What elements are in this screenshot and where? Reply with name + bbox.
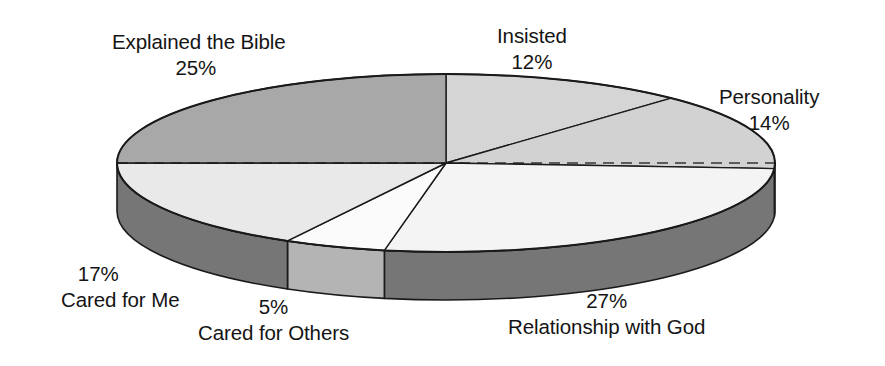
pie-label-cared-for-others-value: 5% (198, 294, 349, 320)
pie-label-personality: Personality 14% (719, 84, 819, 136)
pie-label-insisted-value: 12% (497, 49, 567, 75)
pie-label-cared-for-me-name: Cared for Me (61, 287, 179, 313)
pie-label-relationship-with-god-value: 27% (508, 288, 705, 314)
pie-chart-figure: Explained the Bible 25% Insisted 12% Per… (0, 0, 885, 366)
pie-label-personality-value: 14% (719, 110, 819, 136)
pie-label-cared-for-others: 5% Cared for Others (198, 294, 349, 346)
pie-label-cared-for-me: 17% Cared for Me (61, 261, 179, 313)
pie-label-insisted-name: Insisted (497, 23, 567, 49)
pie-label-explained-the-bible: Explained the Bible 25% (112, 29, 286, 81)
pie-label-insisted: Insisted 12% (497, 23, 567, 75)
pie-label-relationship-with-god-name: Relationship with God (508, 314, 705, 340)
pie-label-cared-for-others-name: Cared for Others (198, 320, 349, 346)
pie-label-personality-name: Personality (719, 84, 819, 110)
pie-label-cared-for-me-value: 17% (61, 261, 179, 287)
pie-label-explained-the-bible-value: 25% (112, 55, 286, 81)
pie-label-explained-the-bible-name: Explained the Bible (112, 29, 286, 55)
pie-label-relationship-with-god: 27% Relationship with God (508, 288, 705, 340)
